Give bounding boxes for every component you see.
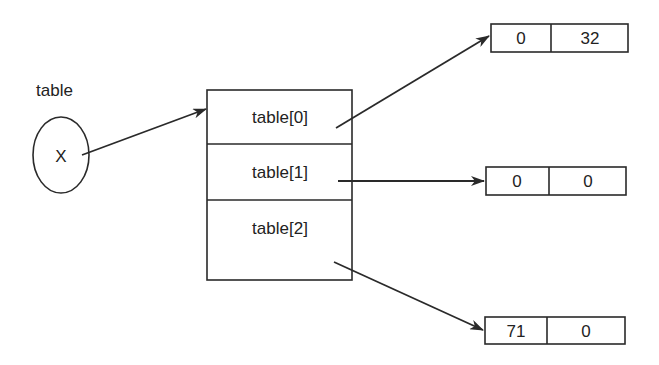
reference-arrow-slot-2: [334, 262, 483, 330]
row-array-2-cell-0: 71: [507, 322, 526, 341]
variable-table: table X: [33, 81, 89, 193]
reference-arrow-variable-to-array: [82, 109, 206, 155]
reference-array: table[0] table[1] table[2]: [207, 90, 352, 280]
array-slot-2-label: table[2]: [252, 219, 308, 238]
row-array-1: 0 0: [486, 167, 626, 195]
variable-name-label: table: [36, 81, 73, 100]
row-array-0: 0 32: [491, 24, 628, 52]
variable-value: X: [55, 147, 66, 166]
row-array-0-cell-1: 32: [581, 29, 600, 48]
row-array-0-cell-0: 0: [516, 29, 525, 48]
reference-arrow-slot-0: [336, 36, 489, 128]
row-array-2-cell-1: 0: [581, 322, 590, 341]
row-array-1-cell-1: 0: [583, 172, 592, 191]
row-array-1-box: [486, 167, 626, 195]
row-array-0-box: [491, 24, 628, 52]
array-slot-0-label: table[0]: [252, 108, 308, 127]
array-slot-1-label: table[1]: [252, 163, 308, 182]
row-array-1-cell-0: 0: [512, 172, 521, 191]
reference-diagram: table X table[0] table[1] table[2] 0 32 …: [0, 0, 659, 365]
row-array-2: 71 0: [485, 317, 625, 344]
